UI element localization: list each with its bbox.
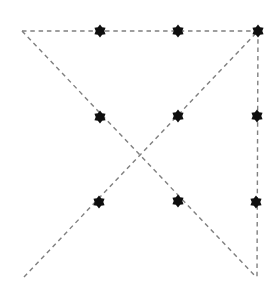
grid-dot-top-center-star-icon [172, 25, 183, 38]
grid-dot-bottom-left-star-icon [93, 196, 104, 209]
grid-dot-middle-center-star-icon [172, 110, 183, 123]
solution-line-diagonal-tl-br [22, 31, 256, 277]
solution-line-diagonal-bl-tr [24, 31, 258, 277]
nine-dots-figure [0, 0, 280, 293]
grid-dot-bottom-right-star-icon [250, 196, 261, 209]
solution-line-right-vertical [257, 31, 258, 277]
grid-dot-bottom-center-star-icon [172, 195, 183, 208]
nine-dots-diagram [0, 0, 280, 293]
grid-dot-top-left-star-icon [94, 25, 105, 38]
grid-dot-middle-left-star-icon [94, 111, 105, 124]
solution-lines [22, 31, 258, 277]
grid-dot-middle-right-star-icon [251, 110, 262, 123]
